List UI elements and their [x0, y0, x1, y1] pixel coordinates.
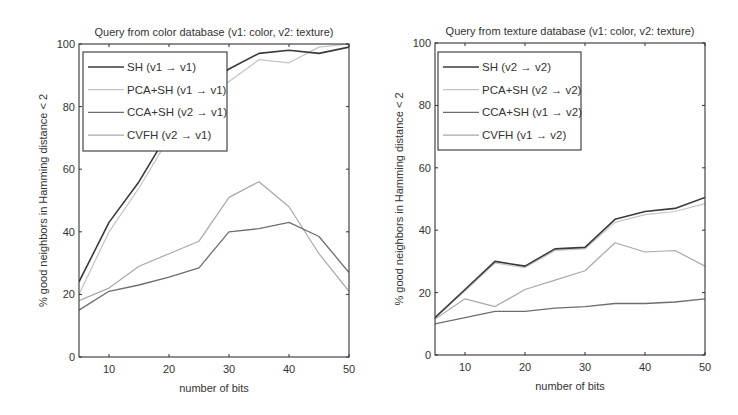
y-tick-label: 0 — [69, 351, 75, 363]
x-tick-label: 20 — [519, 361, 531, 373]
chart-title: Query from texture database (v1: color, … — [446, 25, 695, 37]
series-line — [79, 182, 349, 301]
series-line — [79, 222, 349, 310]
series-line — [435, 197, 705, 317]
x-tick-label: 50 — [343, 363, 355, 375]
y-tick-label: 100 — [57, 38, 75, 50]
x-tick-label: 30 — [223, 363, 235, 375]
y-tick-label: 20 — [63, 288, 75, 300]
y-axis-label: % good neighbors in Hamming distance < 2 — [393, 92, 405, 305]
legend-label: PCA+SH (v2 → v2) — [482, 84, 582, 96]
series-line — [435, 299, 705, 324]
y-tick-label: 0 — [425, 349, 431, 361]
legend: SH (v1 → v1)PCA+SH (v1 → v1)CCA+SH (v2 →… — [83, 52, 227, 151]
legend-label: SH (v2 → v2) — [482, 61, 551, 73]
legend: SH (v2 → v2)PCA+SH (v2 → v2)CCA+SH (v1 →… — [438, 52, 582, 150]
legend-label: CCA+SH (v2 → v1) — [127, 106, 227, 118]
x-tick-label: 40 — [639, 361, 651, 373]
y-tick-label: 100 — [413, 37, 431, 49]
x-axis-label: number of bits — [179, 382, 249, 394]
y-tick-label: 80 — [419, 99, 431, 111]
legend-label: PCA+SH (v1 → v1) — [127, 84, 227, 96]
x-tick-label: 10 — [103, 363, 115, 375]
chart-panel-texture-query: Query from texture database (v1: color, … — [393, 25, 711, 392]
x-tick-label: 30 — [579, 361, 591, 373]
y-tick-label: 60 — [63, 163, 75, 175]
y-axis-label: % good neighbors in Hamming distance < 2 — [37, 94, 49, 307]
legend-label: CVFH (v2 → v1) — [127, 129, 212, 141]
series-line — [435, 204, 705, 318]
x-tick-label: 10 — [459, 361, 471, 373]
y-tick-label: 20 — [419, 287, 431, 299]
x-tick-label: 40 — [283, 363, 295, 375]
y-tick-label: 80 — [63, 101, 75, 113]
y-tick-label: 60 — [419, 162, 431, 174]
chart-panel-color-query: Query from color database (v1: color, v2… — [37, 26, 355, 394]
legend-label: CVFH (v1 → v2) — [482, 129, 567, 141]
x-tick-label: 50 — [699, 361, 711, 373]
x-tick-label: 20 — [163, 363, 175, 375]
series-group — [435, 197, 705, 323]
legend-label: CCA+SH (v1 → v2) — [482, 106, 582, 118]
figure: Query from color database (v1: color, v2… — [0, 0, 738, 415]
y-tick-label: 40 — [419, 224, 431, 236]
x-axis-label: number of bits — [535, 380, 605, 392]
y-tick-label: 40 — [63, 226, 75, 238]
chart-title: Query from color database (v1: color, v2… — [94, 26, 333, 38]
legend-label: SH (v1 → v1) — [127, 61, 196, 73]
